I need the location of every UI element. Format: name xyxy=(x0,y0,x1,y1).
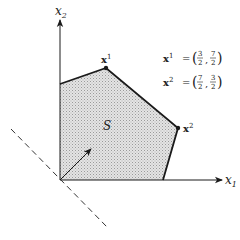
svg-text:2: 2 xyxy=(198,83,202,91)
x2-axis-label: x2 xyxy=(55,4,67,20)
region-label-S: S xyxy=(103,119,111,133)
svg-text:x2: x2 xyxy=(163,76,173,88)
x1-axis-label: x1 xyxy=(225,173,237,189)
svg-text:): ) xyxy=(217,74,222,90)
vertex-x1-dot xyxy=(104,66,108,70)
svg-text:x1: x1 xyxy=(163,52,173,64)
svg-text:(: ( xyxy=(192,50,197,66)
svg-text:=: = xyxy=(182,53,190,64)
svg-text:3: 3 xyxy=(198,50,202,58)
svg-text:7: 7 xyxy=(198,74,202,82)
svg-text:2: 2 xyxy=(198,59,202,67)
svg-text:3: 3 xyxy=(211,74,215,82)
svg-text:,: , xyxy=(205,78,208,89)
svg-text:(: ( xyxy=(192,74,197,90)
equation-x2: x2 = ( 7 2 , 3 2 ) xyxy=(163,74,222,91)
svg-text:2: 2 xyxy=(211,83,215,91)
svg-text:): ) xyxy=(217,50,222,66)
vertex-x1-label: x1 xyxy=(101,53,111,65)
svg-text:,: , xyxy=(205,54,208,65)
feasible-region-S xyxy=(60,68,178,180)
svg-text:2: 2 xyxy=(211,59,215,67)
svg-text:=: = xyxy=(182,77,190,88)
vertex-x2-label: x2 xyxy=(183,122,193,134)
vertex-x2-dot xyxy=(176,126,180,130)
linear-program-diagram: x2 x1 S x1 x2 x1 = ( 3 2 , 7 2 ) x2 = ( … xyxy=(0,0,240,240)
svg-text:7: 7 xyxy=(211,50,215,58)
equation-x1: x1 = ( 3 2 , 7 2 ) xyxy=(163,50,222,67)
